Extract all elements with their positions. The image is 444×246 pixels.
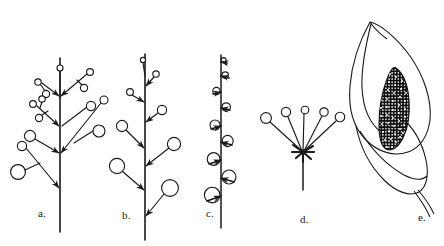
panel-d-rays	[261, 106, 345, 151]
panel-label-a: a.	[38, 207, 46, 219]
inflorescence-figure: a. b. c. d. e.	[0, 0, 444, 246]
spadix	[379, 68, 409, 150]
spathe-tip-curl	[370, 22, 387, 39]
panel-d-umbel	[261, 106, 345, 190]
panel-label-b: b.	[122, 209, 131, 221]
panel-label-d: d.	[300, 213, 309, 225]
inflorescence-drawing	[0, 0, 444, 246]
panel-c-sessile-flowers	[204, 58, 236, 203]
panel-c-spike	[204, 55, 236, 228]
panel-label-c: c.	[206, 207, 214, 219]
panel-a-panicle	[11, 58, 108, 232]
panel-label-e: e.	[418, 211, 426, 223]
panel-b-raceme	[109, 54, 180, 240]
panel-e-spadix-spathe	[350, 22, 434, 217]
